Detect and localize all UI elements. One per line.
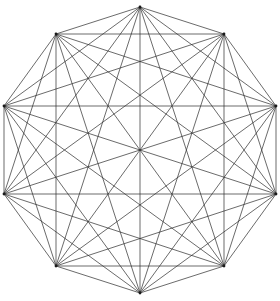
graph-edge — [140, 266, 224, 293]
graph-edge — [4, 34, 224, 106]
graph-vertex — [223, 33, 226, 36]
graph-vertex — [55, 33, 58, 36]
graph-edge — [4, 106, 140, 293]
graph-edge — [4, 194, 224, 266]
graph-edge — [4, 7, 140, 194]
graph-vertex — [3, 193, 6, 196]
graph-edge — [140, 7, 276, 194]
graph-edge — [140, 106, 276, 293]
graph-vertex — [139, 6, 142, 9]
graph-edge — [4, 106, 56, 266]
graph-vertex — [55, 265, 58, 268]
graph-edge — [224, 106, 276, 266]
graph-edge — [4, 34, 56, 106]
graph-edge — [140, 7, 224, 34]
graph-edge — [56, 7, 140, 34]
graph-edge — [224, 34, 276, 106]
graph-vertex — [139, 292, 142, 295]
star-polygon-svg — [0, 0, 280, 301]
graph-vertex — [223, 265, 226, 268]
graph-edge — [4, 194, 56, 266]
graph-edge — [4, 34, 56, 194]
graph-edge — [224, 194, 276, 266]
graph-edge — [224, 34, 276, 194]
star-polygon-figure — [0, 0, 280, 301]
graph-edge — [56, 34, 140, 293]
graph-edge — [56, 194, 276, 266]
graph-edge — [4, 194, 140, 293]
graph-edge — [56, 266, 140, 293]
graph-edge — [56, 34, 276, 194]
graph-vertex — [3, 105, 6, 108]
graph-edge — [56, 34, 276, 106]
graph-vertex — [275, 105, 278, 108]
graph-edge — [4, 106, 224, 266]
graph-vertex — [275, 193, 278, 196]
edge-group — [4, 7, 276, 293]
